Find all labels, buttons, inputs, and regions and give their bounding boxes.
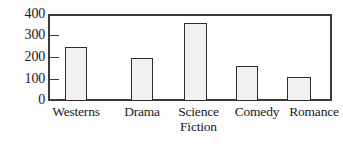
x-axis-label-romance: Romance xyxy=(283,104,343,119)
bar-drama xyxy=(131,58,153,102)
x-axis-label-science-fiction: Science Fiction xyxy=(169,104,228,134)
x-axis-label-westerns: Westerns xyxy=(40,104,112,119)
bar-science-fiction xyxy=(184,23,207,101)
x-axis-label-comedy: Comedy xyxy=(228,104,286,119)
bar-romance xyxy=(287,77,311,101)
bar-comedy xyxy=(236,66,258,101)
bar-westerns xyxy=(65,47,87,101)
x-axis-labels: Westerns Drama Science Fiction Comedy Ro… xyxy=(0,104,343,152)
bar-chart: 400 300 200 100 0 Westerns Drama Science… xyxy=(0,0,343,152)
x-axis-label-drama: Drama xyxy=(112,104,172,119)
